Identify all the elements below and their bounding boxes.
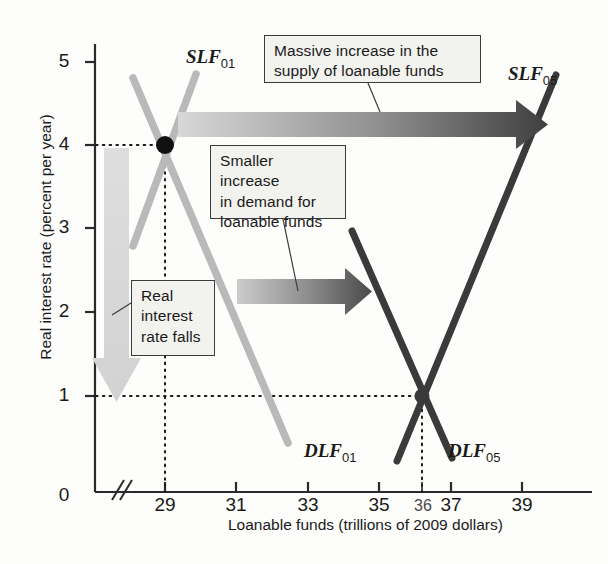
loanable-funds-chart: Massive increase in the supply of loanab… (0, 0, 608, 564)
curve-label-slf01: SLF01 (186, 46, 235, 71)
curve-label-dlf01: DLF01 (304, 440, 356, 465)
demand-shift-arrow (237, 268, 372, 315)
slf05-label-main: SLF (508, 63, 543, 84)
y-tick-label-0: 0 (47, 484, 81, 506)
equilibrium-point-2001 (156, 136, 174, 154)
rate-falls-arrow (92, 148, 141, 402)
curve-label-dlf05: DLF05 (448, 440, 500, 465)
slf05-label-sub: 05 (543, 73, 557, 88)
axis-break-icon (112, 480, 132, 500)
dlf05-curve (352, 231, 452, 458)
y-axis-title: Real interest rate (percent per year) (37, 87, 55, 387)
x-axis-ticks (165, 482, 522, 492)
callout-demand-line1: Smaller increase (220, 151, 337, 192)
callout-supply-line2: supply of loanable funds (274, 61, 472, 81)
callout-demand-line2: in demand for (220, 192, 337, 212)
supply-shift-arrow (178, 100, 548, 149)
y-tick-label-1: 1 (47, 384, 81, 406)
supply-leader-line (368, 83, 380, 112)
dlf01-label-main: DLF (304, 440, 342, 461)
x-tick-label-35: 35 (362, 494, 396, 516)
dlf01-label-sub: 01 (342, 450, 356, 465)
slf01-label-sub: 01 (221, 56, 235, 71)
x-tick-label-37: 37 (434, 494, 468, 516)
callout-rate-falls: Real interest rate falls (131, 280, 215, 356)
y-tick-label-5: 5 (47, 50, 81, 72)
x-tick-label-39: 39 (505, 494, 539, 516)
x-tick-label-31: 31 (219, 494, 253, 516)
callout-rate-line2: interest (141, 306, 206, 326)
callout-rate-line3: rate falls (141, 327, 206, 347)
callout-rate-line1: Real (141, 286, 206, 306)
callout-demand-increase: Smaller increase in demand for loanable … (210, 145, 346, 219)
callout-demand-line3: loanable funds (220, 212, 337, 232)
y-axis-ticks (85, 62, 95, 396)
x-tick-label-29: 29 (148, 494, 182, 516)
dlf05-label-sub: 05 (486, 450, 500, 465)
callout-supply-increase: Massive increase in the supply of loanab… (264, 35, 481, 83)
x-tick-label-33: 33 (291, 494, 325, 516)
x-axis-title: Loanable funds (trillions of 2009 dollar… (228, 516, 608, 534)
curve-label-slf05: SLF05 (508, 63, 557, 88)
dlf05-label-main: DLF (448, 440, 486, 461)
callout-supply-line1: Massive increase in the (274, 41, 472, 61)
equilibrium-point-2005 (415, 389, 430, 404)
slf01-label-main: SLF (186, 46, 221, 67)
